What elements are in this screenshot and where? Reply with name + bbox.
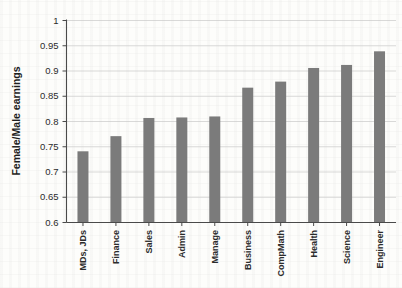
x-axis-label: Science [342,230,352,264]
y-tick-label: 0.85 [40,90,59,101]
x-axis-label: Admin [177,230,187,258]
x-axis-label: Business [243,230,253,270]
bars-group [77,51,385,222]
y-tick-label: 0.7 [45,166,58,177]
y-tick-label: 1 [53,15,58,26]
y-tick-label: 0.75 [40,141,59,152]
y-tick-label: 0.8 [45,116,58,127]
x-axis-label: Finance [111,230,121,264]
y-tick-label: 0.65 [40,191,59,202]
x-axis-label: CompMath [276,230,286,277]
bar [374,51,385,222]
x-axis-labels-group: MDs, JDsFinanceSalesAdminManageBusinessC… [78,222,385,277]
bar [209,116,220,222]
bar [275,82,286,222]
x-axis-label: Manage [210,230,220,264]
x-axis-label: Sales [144,230,154,254]
x-axis-label: Engineer [375,230,385,269]
y-tick-label: 0.6 [45,217,58,228]
y-tick-label: 0.9 [45,65,58,76]
bar-chart: 0.60.650.70.750.80.850.90.951 MDs, JDsFi… [0,0,402,288]
bar [110,136,121,222]
bar [176,117,187,222]
bar [242,88,253,222]
bar [308,68,319,222]
y-axis-title: Female/Male earnings [10,66,22,175]
y-axis-ticks-group: 0.60.650.70.750.80.850.90.951 [40,15,67,228]
bar [77,151,88,222]
bar [143,118,154,222]
x-axis-label: MDs, JDs [78,230,88,271]
chart-svg: 0.60.650.70.750.80.850.90.951 MDs, JDsFi… [0,0,402,288]
x-axis-label: Health [309,230,319,258]
bar [341,65,352,222]
y-tick-label: 0.95 [40,40,59,51]
